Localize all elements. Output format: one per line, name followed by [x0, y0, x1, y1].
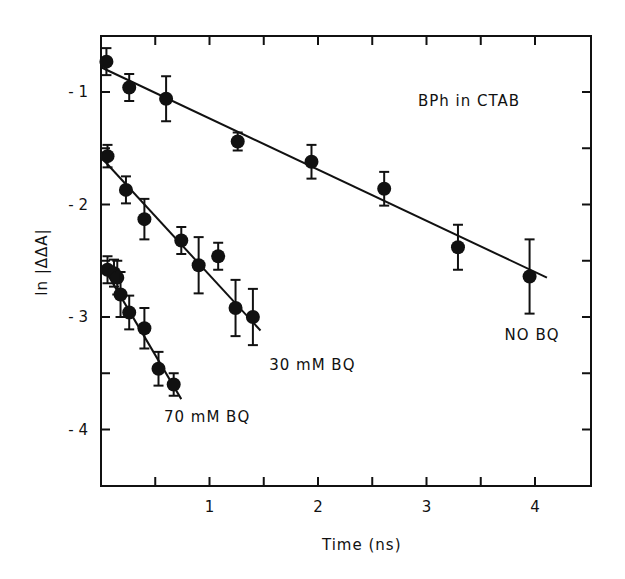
data-point [137, 199, 151, 240]
x-tick-label: 4 [530, 498, 540, 516]
fit-lines [101, 67, 547, 399]
x-tick-label: 3 [422, 498, 432, 516]
x-axis-label: Time (ns) [321, 536, 402, 554]
data-point [229, 280, 243, 336]
x-tick-label: 1 [205, 498, 215, 516]
data-point [152, 352, 166, 386]
series-label: 30 mM BQ [269, 356, 355, 374]
chart: 1234- 1- 2- 3- 4 NO BQ30 mM BQ70 mM BQ B… [0, 0, 625, 579]
data-point [231, 133, 245, 151]
y-tick-label: - 1 [68, 83, 88, 101]
data-point [137, 308, 151, 349]
y-axis-label: ln |ΔΔA| [33, 228, 51, 295]
data-point [377, 172, 391, 206]
data-point [451, 225, 465, 270]
tick-labels: 1234- 1- 2- 3- 4 [68, 83, 540, 516]
y-tick-label: - 4 [68, 421, 88, 439]
data-point [246, 289, 260, 345]
data-point [159, 76, 173, 121]
annotation-label: BPh in CTAB [418, 92, 520, 110]
series-label: NO BQ [505, 326, 560, 344]
data-point [211, 243, 225, 270]
data-point [192, 237, 206, 293]
data-point [304, 145, 318, 179]
y-tick-label: - 2 [68, 196, 88, 214]
series-label: 70 mM BQ [164, 408, 250, 426]
x-tick-label: 2 [313, 498, 323, 516]
y-tick-label: - 3 [68, 308, 88, 326]
data-point [523, 239, 537, 313]
series-labels: NO BQ30 mM BQ70 mM BQ [164, 326, 560, 426]
